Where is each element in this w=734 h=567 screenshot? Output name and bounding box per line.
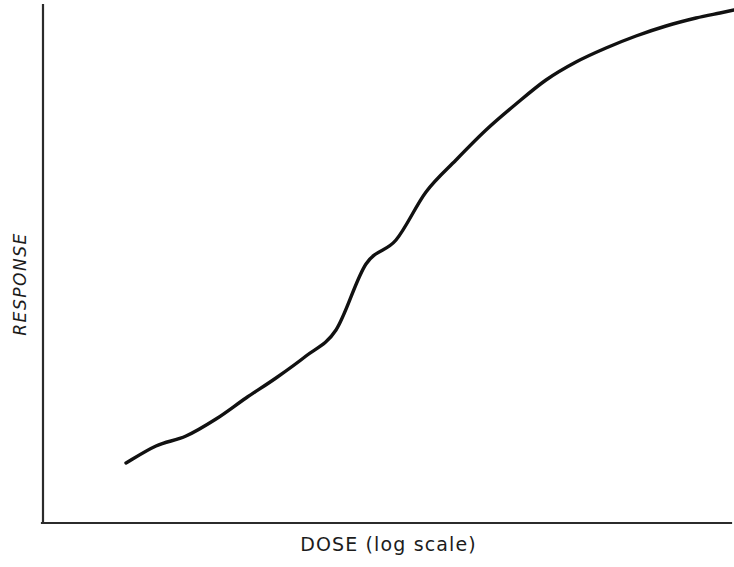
y-axis-label-text: RESPONSE — [10, 232, 30, 335]
chart-background — [0, 0, 734, 567]
plot-area — [0, 0, 734, 567]
y-axis-label: RESPONSE — [0, 0, 40, 567]
dose-response-chart: RESPONSE DOSE (log scale) — [0, 0, 734, 567]
x-axis-label: DOSE (log scale) — [43, 533, 734, 555]
